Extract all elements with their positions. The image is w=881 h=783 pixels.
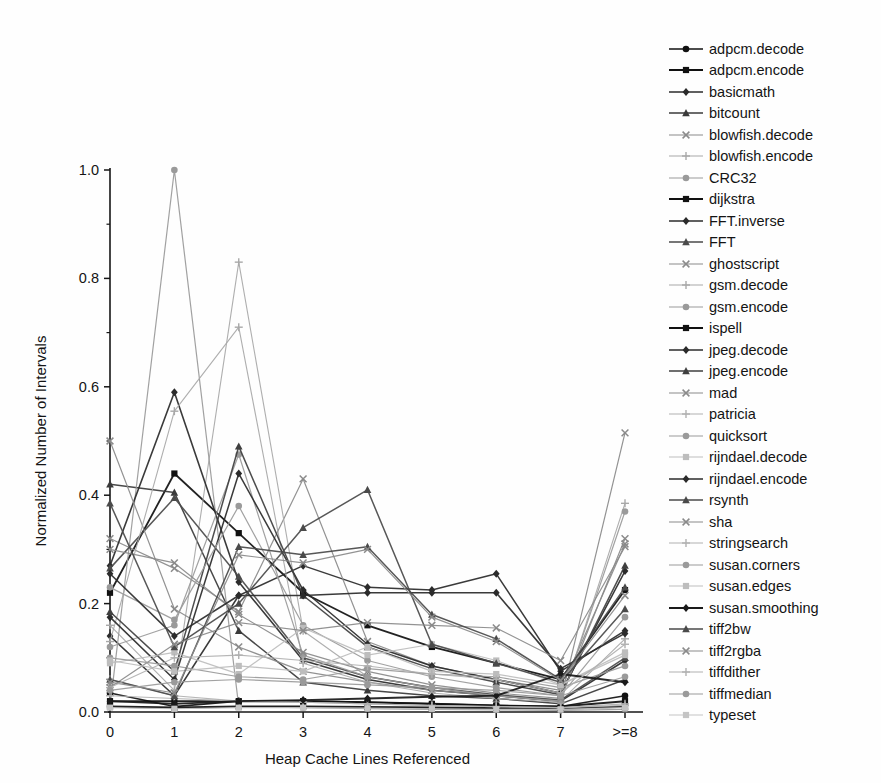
marker-square bbox=[683, 196, 689, 202]
legend-item[interactable]: basicmath bbox=[668, 81, 878, 103]
legend-item[interactable]: FFT.inverse bbox=[668, 210, 878, 232]
legend-item[interactable]: susan.corners bbox=[668, 554, 878, 576]
legend-item-label: blowfish.decode bbox=[709, 127, 813, 143]
legend-item-label: rijndael.encode bbox=[709, 471, 807, 487]
marker-circle bbox=[557, 692, 564, 699]
marker-triangle bbox=[621, 583, 629, 590]
marker-square bbox=[300, 705, 306, 711]
legend-item[interactable]: quicksort bbox=[668, 425, 878, 447]
legend-item[interactable]: stringsearch bbox=[668, 533, 878, 555]
legend-item[interactable]: tiff2rgba bbox=[668, 640, 878, 662]
legend-item[interactable]: tiffdither bbox=[668, 662, 878, 684]
legend-item[interactable]: adpcm.decode bbox=[668, 38, 878, 60]
marker-circle bbox=[107, 687, 114, 694]
marker-plus bbox=[682, 410, 690, 418]
marker-square bbox=[364, 652, 370, 658]
marker-triangle bbox=[299, 524, 307, 531]
marker-diamond bbox=[428, 693, 435, 701]
legend-swatch bbox=[668, 686, 704, 702]
marker-square bbox=[683, 325, 689, 331]
marker-circle bbox=[107, 644, 114, 651]
marker-square bbox=[493, 706, 499, 712]
marker-circle bbox=[622, 692, 629, 699]
legend-item[interactable]: ghostscript bbox=[668, 253, 878, 275]
legend-item[interactable]: gsm.decode bbox=[668, 275, 878, 297]
legend-item[interactable]: ispell bbox=[668, 318, 878, 340]
marker-circle bbox=[171, 663, 178, 670]
marker-square bbox=[236, 663, 242, 669]
legend-swatch bbox=[668, 471, 704, 487]
legend-item[interactable]: typeset bbox=[668, 705, 878, 727]
marker-diamond bbox=[683, 604, 690, 612]
marker-circle bbox=[683, 45, 690, 52]
legend-item-label: dijkstra bbox=[709, 191, 755, 207]
marker-square bbox=[107, 657, 113, 663]
legend-item[interactable]: blowfish.encode bbox=[668, 146, 878, 168]
marker-circle bbox=[171, 167, 178, 174]
marker-x bbox=[300, 476, 307, 483]
x-tick-label: 0 bbox=[106, 724, 114, 740]
legend-item[interactable]: adpcm.encode bbox=[668, 60, 878, 82]
marker-plus bbox=[235, 651, 243, 659]
marker-circle bbox=[107, 584, 114, 591]
series-layer bbox=[106, 167, 629, 714]
legend-item[interactable]: rijndael.encode bbox=[668, 468, 878, 490]
legend-item-label: blowfish.encode bbox=[709, 148, 813, 164]
legend-swatch bbox=[668, 363, 704, 379]
legend-swatch bbox=[668, 578, 704, 594]
legend-item[interactable]: susan.smoothing bbox=[668, 597, 878, 619]
marker-triangle bbox=[106, 608, 114, 615]
legend-item-label: quicksort bbox=[709, 428, 767, 444]
legend-item[interactable]: rsynth bbox=[668, 490, 878, 512]
legend-item[interactable]: susan.edges bbox=[668, 576, 878, 598]
legend-item-label: jpeg.decode bbox=[709, 342, 788, 358]
legend-swatch bbox=[668, 148, 704, 164]
marker-diamond bbox=[171, 388, 178, 396]
legend-swatch bbox=[668, 41, 704, 57]
legend-item-label: gsm.decode bbox=[709, 277, 788, 293]
legend-item[interactable]: FFT bbox=[668, 232, 878, 254]
marker-circle bbox=[429, 684, 436, 691]
legend-item-label: bitcount bbox=[709, 105, 760, 121]
legend-item[interactable]: blowfish.decode bbox=[668, 124, 878, 146]
legend-item-label: susan.edges bbox=[709, 578, 791, 594]
legend-item-label: susan.corners bbox=[709, 557, 800, 573]
legend-item-label: sha bbox=[709, 514, 732, 530]
marker-plus bbox=[682, 668, 690, 676]
marker-square bbox=[171, 668, 177, 674]
legend-swatch bbox=[668, 191, 704, 207]
legend-item-label: mad bbox=[709, 385, 737, 401]
legend-item[interactable]: mad bbox=[668, 382, 878, 404]
legend-item[interactable]: jpeg.encode bbox=[668, 361, 878, 383]
legend-swatch bbox=[668, 428, 704, 444]
legend-item[interactable]: bitcount bbox=[668, 103, 878, 125]
legend-item[interactable]: rijndael.decode bbox=[668, 447, 878, 469]
marker-square bbox=[558, 706, 564, 712]
marker-circle bbox=[622, 508, 629, 515]
legend-item[interactable]: tiffmedian bbox=[668, 683, 878, 705]
marker-circle bbox=[622, 663, 629, 670]
marker-square bbox=[171, 706, 177, 712]
x-tick-label: >=8 bbox=[613, 724, 638, 740]
y-tick-label: 0.6 bbox=[79, 379, 99, 395]
marker-diamond bbox=[683, 88, 690, 96]
legend-swatch bbox=[668, 127, 704, 143]
legend-item[interactable]: patricia bbox=[668, 404, 878, 426]
legend-item[interactable]: tiff2bw bbox=[668, 619, 878, 641]
marker-plus bbox=[682, 152, 690, 160]
x-tick-label: 3 bbox=[299, 724, 307, 740]
legend-item[interactable]: CRC32 bbox=[668, 167, 878, 189]
marker-circle bbox=[300, 679, 307, 686]
legend-swatch bbox=[668, 406, 704, 422]
legend-item[interactable]: gsm.encode bbox=[668, 296, 878, 318]
legend-swatch bbox=[668, 643, 704, 659]
legend-item[interactable]: jpeg.decode bbox=[668, 339, 878, 361]
legend-item[interactable]: dijkstra bbox=[668, 189, 878, 211]
y-tick-label: 0.4 bbox=[79, 487, 99, 503]
marker-square bbox=[683, 583, 689, 589]
legend-item[interactable]: sha bbox=[668, 511, 878, 533]
marker-circle bbox=[171, 679, 178, 686]
legend-item-label: tiffmedian bbox=[709, 686, 772, 702]
marker-circle bbox=[493, 687, 500, 694]
marker-circle bbox=[235, 676, 242, 683]
